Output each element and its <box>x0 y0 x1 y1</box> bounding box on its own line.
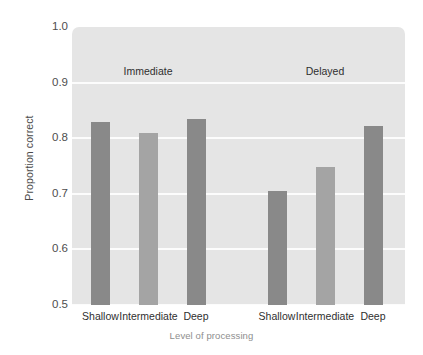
bar-delayed-deep <box>364 126 383 305</box>
bar-immediate-shallow <box>91 122 110 305</box>
x-tick-label: Shallow <box>82 310 119 322</box>
x-tick-label: Intermediate <box>296 310 354 322</box>
gridline <box>72 304 405 305</box>
bar-delayed-intermediate <box>316 167 335 305</box>
x-tick-label: Deep <box>183 310 208 322</box>
bar-immediate-deep <box>187 119 206 305</box>
bar-immediate-intermediate <box>139 133 158 305</box>
x-tick-label: Shallow <box>259 310 296 322</box>
y-tick-label: 0.5 <box>34 299 68 311</box>
bar-delayed-shallow <box>268 191 287 305</box>
x-tick-label: Intermediate <box>119 310 177 322</box>
x-axis-title: Level of processing <box>0 330 423 341</box>
bar-chart-figure: Proportion correct 1.00.90.80.70.60.5 Im… <box>0 0 423 355</box>
plot-area: ImmediateDelayed <box>72 27 405 305</box>
y-tick-label: 0.9 <box>34 77 68 89</box>
x-axis-tick-labels: ShallowIntermediateDeepShallowIntermedia… <box>0 310 423 328</box>
y-tick-label: 0.6 <box>34 243 68 255</box>
gridline <box>72 82 405 84</box>
gridline <box>72 137 405 139</box>
y-tick-label: 1.0 <box>34 21 68 33</box>
group-label-delayed: Delayed <box>306 65 345 77</box>
y-axis-tick-labels: 1.00.90.80.70.60.5 <box>28 0 68 355</box>
gridline <box>72 193 405 195</box>
x-tick-label: Deep <box>360 310 385 322</box>
gridline <box>72 248 405 250</box>
y-tick-label: 0.8 <box>34 132 68 144</box>
group-label-immediate: Immediate <box>123 65 172 77</box>
y-tick-label: 0.7 <box>34 188 68 200</box>
